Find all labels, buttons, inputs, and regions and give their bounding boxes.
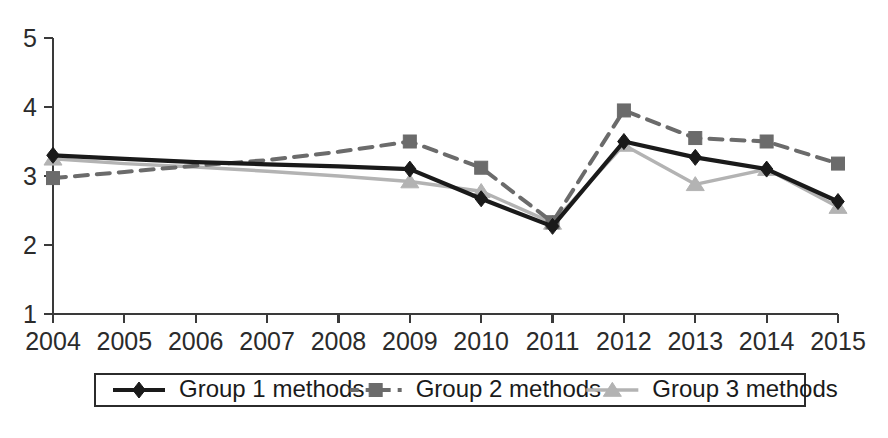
y-axis-tick-labels: 12345 (23, 24, 37, 328)
x-tick-label: 2008 (311, 327, 367, 355)
legend-item-label: Group 2 methods (416, 375, 601, 402)
x-tick-label: 2012 (596, 327, 652, 355)
square-marker (403, 135, 416, 148)
series-2 (47, 104, 845, 229)
legend-items: Group 1 methodsGroup 2 methodsGroup 3 me… (113, 375, 838, 402)
y-tick-label: 3 (23, 162, 37, 190)
x-tick-label: 2015 (810, 327, 866, 355)
legend-item-label: Group 1 methods (179, 375, 364, 402)
data-series-group (44, 104, 847, 234)
chart-legend: Group 1 methodsGroup 2 methodsGroup 3 me… (95, 374, 838, 406)
x-tick-label: 2005 (97, 327, 153, 355)
y-tick-label: 1 (23, 300, 37, 328)
x-tick-label: 2011 (526, 327, 580, 355)
chart-container: 12345 2004200520062007200820092010201120… (0, 0, 888, 438)
legend-item-label: Group 3 methods (652, 375, 837, 402)
square-marker (617, 104, 630, 117)
x-tick-label: 2009 (382, 327, 438, 355)
x-axis-ticks (53, 314, 838, 323)
x-tick-label: 2010 (453, 327, 509, 355)
line-chart-figure: 12345 2004200520062007200820092010201120… (0, 0, 888, 438)
x-axis-tick-labels: 2004200520062007200820092010201120122013… (25, 327, 866, 355)
x-tick-label: 2014 (739, 327, 795, 355)
y-tick-label: 2 (23, 231, 37, 259)
x-tick-label: 2007 (239, 327, 295, 355)
x-tick-label: 2006 (168, 327, 224, 355)
y-tick-label: 5 (23, 24, 37, 52)
square-marker (689, 132, 702, 145)
x-tick-label: 2013 (667, 327, 723, 355)
square-marker (832, 157, 845, 170)
x-tick-label: 2004 (25, 327, 81, 355)
square-marker (369, 384, 382, 397)
square-marker (47, 172, 60, 185)
series-line (53, 110, 838, 222)
y-tick-label: 4 (23, 93, 37, 121)
square-marker (475, 161, 488, 174)
square-marker (760, 135, 773, 148)
diamond-marker (404, 161, 416, 177)
series-1 (47, 134, 844, 235)
diamond-marker (689, 149, 701, 165)
